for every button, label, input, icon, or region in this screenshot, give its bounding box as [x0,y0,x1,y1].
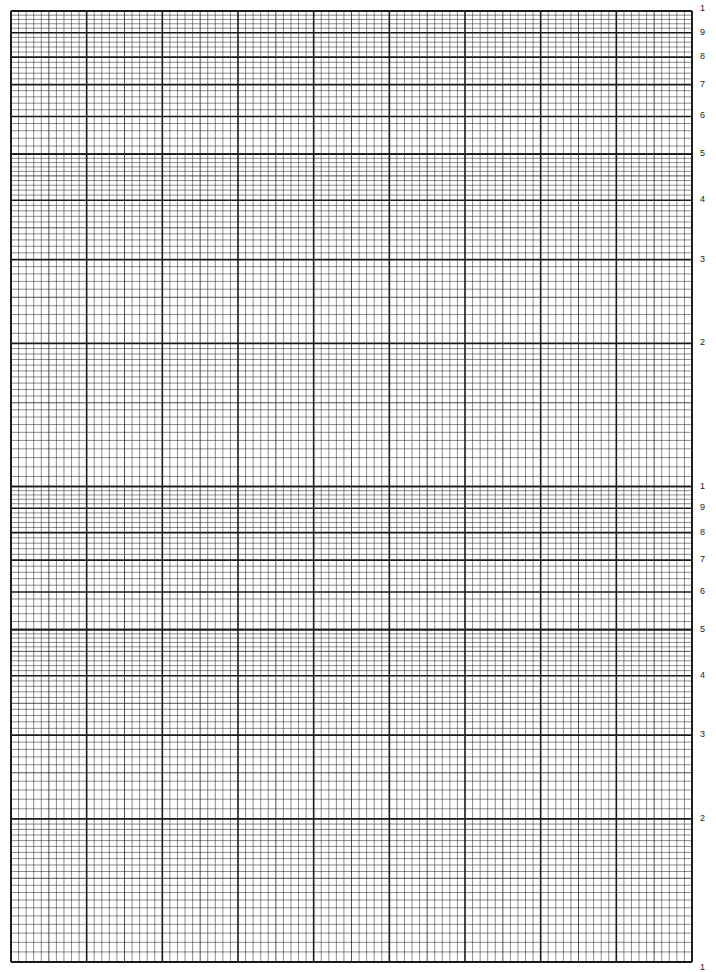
log-axis-label: 5 [700,624,705,634]
log-axis-label: 7 [700,554,705,564]
log-axis-label: 6 [700,110,705,120]
log-axis-label: 8 [700,527,705,537]
log-axis-label: 4 [700,194,705,204]
log-axis-label: 2 [700,813,705,823]
log-axis-label: 7 [700,79,705,89]
log-axis-label: 9 [700,27,705,37]
log-axis-label: 1 [700,962,705,972]
log-axis-label: 3 [700,254,705,264]
log-axis-label: 3 [700,729,705,739]
log-axis-label: 8 [700,51,705,61]
log-axis-label: 9 [700,502,705,512]
log-axis-label: 1 [700,481,705,491]
log-axis-label: 2 [700,337,705,347]
log-axis-label: 6 [700,586,705,596]
semi-log-grid [0,0,716,972]
log-axis-label: 4 [700,670,705,680]
log-axis-label: 5 [700,148,705,158]
log-axis-label: 1 [700,3,705,13]
